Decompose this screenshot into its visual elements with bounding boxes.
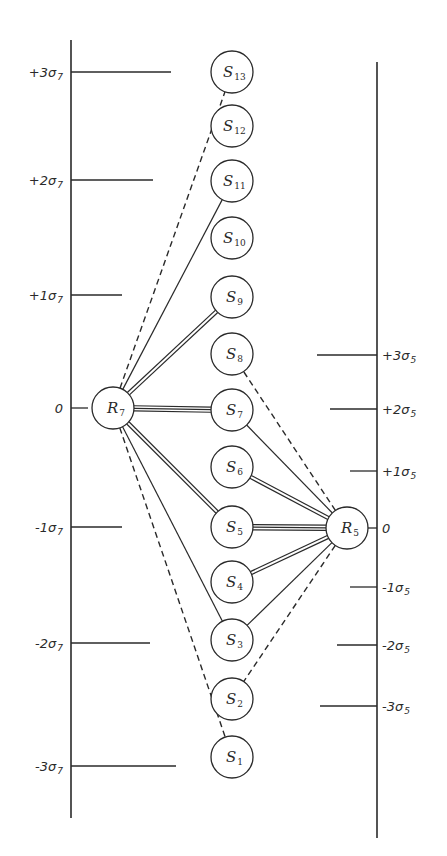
right-axis-tick-label: -1σ5 <box>382 580 410 597</box>
node-label-text: S <box>226 748 236 766</box>
left-axis-tick-label-subscript: 7 <box>57 295 63 305</box>
right-axis-tick-label-subscript: 5 <box>410 409 416 419</box>
edge-line <box>120 92 225 388</box>
node-label-subscript: 1 <box>237 757 243 767</box>
right-axis-tick-label-subscript: 5 <box>404 706 410 716</box>
left-axis-tick-label: +2σ7 <box>29 173 63 190</box>
edge-r7-s11-single <box>123 200 222 390</box>
right-axis-tick-label-text: -2σ <box>382 638 404 653</box>
right-axis-tick-label: -3σ5 <box>382 699 410 716</box>
node-s13: S13 <box>211 51 253 93</box>
left-axis-tick-label-text: -2σ <box>35 636 57 651</box>
right-axis-tick-label-text: +2σ <box>382 402 410 417</box>
node-label-text: S <box>226 518 236 536</box>
right-axis-tick-label-text: +1σ <box>382 464 410 479</box>
left-axis-tick-label-text: +1σ <box>29 288 57 303</box>
node-s6: S6 <box>211 446 253 488</box>
node-label-text: S <box>226 458 236 476</box>
edge-line <box>253 527 326 528</box>
left-axis-tick-label-text: -1σ <box>35 520 57 535</box>
edge-line <box>244 372 336 511</box>
left-axis-r7-scale: +3σ7+2σ7+1σ70-1σ7-2σ7-3σ7 <box>29 40 176 818</box>
node-s3: S3 <box>211 619 253 661</box>
node-label-text: S <box>223 172 233 190</box>
left-axis-tick-label-subscript: 7 <box>57 180 63 190</box>
node-label-text: R <box>106 399 118 417</box>
left-axis-tick-label: -3σ7 <box>35 759 63 776</box>
edge-line <box>127 310 215 392</box>
node-label-subscript: 7 <box>237 410 243 420</box>
node-label-subscript: 4 <box>237 582 243 592</box>
node-label-text: S <box>226 401 236 419</box>
edge-r7-s9-double <box>127 310 217 395</box>
node-label-subscript: 8 <box>237 354 243 364</box>
node-label-subscript: 5 <box>237 527 243 537</box>
left-axis-tick-label-subscript: 7 <box>57 72 63 82</box>
node-s5: S5 <box>211 506 253 548</box>
node-s10: S10 <box>211 217 253 259</box>
left-axis-tick-label: -1σ7 <box>35 520 63 537</box>
left-axis-tick-label-subscript: 7 <box>57 766 63 776</box>
left-axis-tick-label-text: +3σ <box>29 65 57 80</box>
node-s2: S2 <box>211 678 253 720</box>
right-axis-tick-label-text: -3σ <box>382 699 404 714</box>
edge-r7-s3-single <box>123 427 223 622</box>
right-axis-tick-label-subscript: 5 <box>404 645 410 655</box>
edge-line <box>253 525 326 526</box>
edge-line <box>253 530 326 531</box>
left-axis-tick-label-text: +2σ <box>29 173 57 188</box>
node-label-text: S <box>226 573 236 591</box>
right-axis-tick-label-subscript: 5 <box>404 587 410 597</box>
node-s8: S8 <box>211 333 253 375</box>
node-s4: S4 <box>211 561 253 603</box>
edge-r5-s5-triple <box>253 525 326 531</box>
left-axis-tick-label: 0 <box>55 401 63 416</box>
right-axis-tick-label-text: +3σ <box>382 348 410 363</box>
edge-r7-s13-dashed <box>120 92 225 388</box>
node-label-subscript: 3 <box>237 640 243 650</box>
edge-line <box>250 478 328 519</box>
node-label-text: S <box>223 229 233 247</box>
right-axis-tick-label: 0 <box>382 521 390 536</box>
right-axis-r5-scale: +3σ5+2σ5+1σ50-1σ5-2σ5-3σ5 <box>317 62 416 838</box>
node-label-subscript: 11 <box>234 181 245 191</box>
left-axis-tick-label: +1σ7 <box>29 288 63 305</box>
edge-line <box>120 428 225 737</box>
node-label-text: S <box>223 63 233 81</box>
edge-line <box>244 545 336 681</box>
edge-r7-s5-double <box>127 422 219 514</box>
node-label-text: S <box>226 631 236 649</box>
right-axis-tick-label-text: 0 <box>382 521 390 536</box>
edge-r5-s2-dashed <box>244 545 336 681</box>
left-axis-tick-label: -2σ7 <box>35 636 63 653</box>
edge-r5-s4-double <box>250 535 328 574</box>
node-label-text: S <box>226 288 236 306</box>
sociogram-diagram: +3σ7+2σ7+1σ70-1σ7-2σ7-3σ7 +3σ5+2σ5+1σ50-… <box>0 0 447 856</box>
node-r7: R7 <box>92 387 134 429</box>
node-label-text: S <box>226 345 236 363</box>
right-axis-tick-label: -2σ5 <box>382 638 410 655</box>
left-axis-tick-label-text: 0 <box>55 401 63 416</box>
edge-r7-s1-dashed <box>120 428 225 737</box>
edge-line <box>134 406 211 407</box>
right-axis-tick-label-text: -1σ <box>382 580 404 595</box>
node-s11: S11 <box>211 160 253 202</box>
node-label-text: R <box>340 519 352 537</box>
node-label-subscript: 2 <box>237 699 243 709</box>
left-axis-tick-label-text: -3σ <box>35 759 57 774</box>
right-axis-tick-label: +1σ5 <box>382 464 416 481</box>
node-s9: S9 <box>211 276 253 318</box>
node-label-subscript: 13 <box>234 72 246 82</box>
node-s12: S12 <box>211 105 253 147</box>
edge-r5-s8-dashed <box>244 372 336 511</box>
right-axis-tick-label-subscript: 5 <box>410 471 416 481</box>
edge-line <box>134 408 211 409</box>
edge-line <box>129 312 217 394</box>
edge-r7-s7-triple <box>134 406 211 412</box>
node-label-subscript: 9 <box>237 297 243 307</box>
node-label-subscript: 12 <box>234 126 245 136</box>
node-label-text: S <box>226 690 236 708</box>
edge-line <box>251 475 329 516</box>
right-axis-tick-label: +3σ5 <box>382 348 416 365</box>
edge-line <box>250 535 327 571</box>
